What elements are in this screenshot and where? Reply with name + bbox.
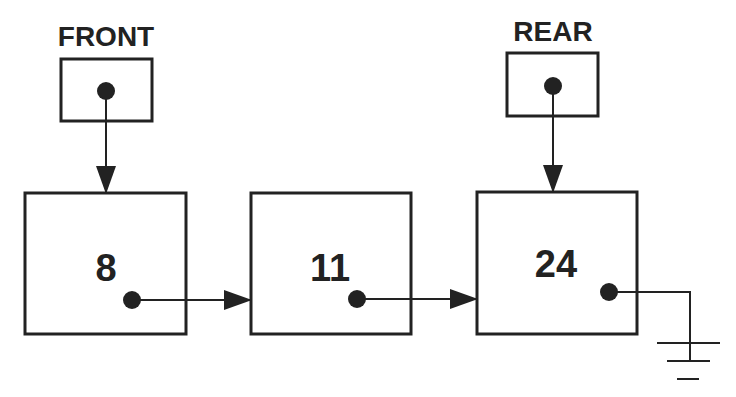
front-pointer: FRONT	[58, 21, 154, 193]
rear-pointer: REAR	[507, 16, 598, 192]
node-2: 11	[251, 193, 477, 334]
linked-list-queue-diagram: FRONT REAR 8 11 24	[0, 0, 736, 397]
node-3-value: 24	[535, 243, 577, 285]
node-3-null-wire	[609, 292, 690, 361]
node-2-value: 11	[310, 247, 350, 289]
front-label: FRONT	[58, 21, 154, 52]
node-1: 8	[25, 193, 251, 334]
rear-label: REAR	[513, 16, 592, 47]
ground-icon	[657, 343, 720, 379]
node-1-value: 8	[95, 247, 116, 289]
node-3: 24	[477, 192, 690, 361]
